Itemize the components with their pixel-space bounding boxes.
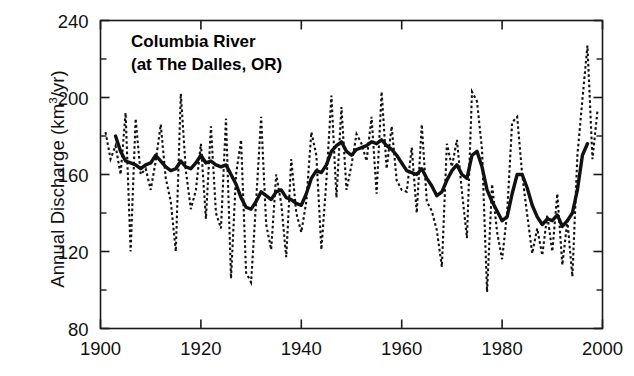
data-series-layer: [106, 46, 598, 292]
y-tick-label: 160: [58, 165, 89, 186]
y-tick-label: 240: [58, 11, 89, 32]
series-annual-dotted: [106, 46, 598, 292]
chart-figure: Annual Discharge (km3/yr) Columbia River…: [0, 0, 634, 376]
x-tick-label: 1980: [482, 338, 523, 359]
y-axis-ticks: [101, 21, 603, 329]
x-tick-label: 1920: [180, 338, 221, 359]
tick-label-layer: 80120160200240190019201940196019802000: [58, 11, 623, 359]
x-tick-label: 2000: [582, 338, 623, 359]
plot-area: 80120160200240190019201940196019802000: [0, 0, 634, 376]
y-tick-label: 200: [58, 88, 89, 109]
y-tick-label: 80: [68, 319, 89, 340]
x-tick-label: 1900: [80, 338, 121, 359]
x-tick-label: 1940: [281, 338, 322, 359]
series-smoothed-solid: [116, 136, 588, 226]
x-axis-ticks: [101, 21, 603, 329]
x-tick-label: 1960: [381, 338, 422, 359]
y-tick-label: 120: [58, 242, 89, 263]
axis-frame: [101, 21, 603, 329]
